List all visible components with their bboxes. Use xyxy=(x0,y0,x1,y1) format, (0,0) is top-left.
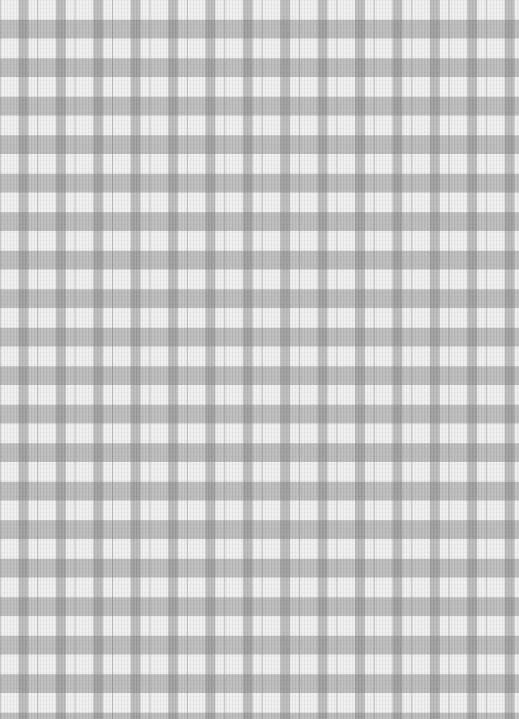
gingham-fabric-texture xyxy=(0,0,519,719)
weave-texture-layer xyxy=(0,0,519,719)
